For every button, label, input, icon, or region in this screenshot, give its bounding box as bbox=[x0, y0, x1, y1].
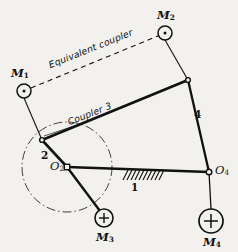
pivot-b-joint bbox=[186, 78, 191, 83]
link-number-crank: 2 bbox=[41, 150, 48, 161]
arm-m3-line bbox=[67, 167, 100, 211]
link-number-ground: 1 bbox=[131, 182, 138, 193]
ground-link-1-line bbox=[67, 167, 209, 172]
linkage-diagram: Equivalent coupler Coupler 3 M1 M2 M3 M4… bbox=[0, 0, 238, 252]
mass-m4-label: M4 bbox=[203, 237, 221, 249]
pivot-o2-label: O2 bbox=[50, 161, 64, 173]
arm-m1-line bbox=[24, 98, 42, 140]
pivot-a-joint bbox=[40, 138, 45, 143]
ground-hatching bbox=[123, 170, 164, 180]
link-number-rocker: 4 bbox=[194, 109, 201, 120]
mass-m3-marker bbox=[95, 209, 113, 227]
pivot-o4-label: O4 bbox=[215, 165, 229, 177]
mass-m1-marker bbox=[17, 84, 31, 98]
mass-m4-marker bbox=[199, 209, 223, 233]
pivot-o4-joint bbox=[206, 169, 212, 175]
rocker-link-4-line bbox=[188, 80, 209, 172]
mass-m2-marker bbox=[158, 26, 172, 40]
mass-m3-label: M3 bbox=[96, 232, 114, 244]
arm-m2-line bbox=[165, 40, 188, 80]
pivot-o2-joint bbox=[64, 164, 69, 169]
arm-m4-line bbox=[209, 172, 211, 209]
mass-m1-label: M1 bbox=[11, 68, 29, 80]
mass-m2-label: M2 bbox=[157, 10, 175, 22]
coupler-link-3-line bbox=[42, 80, 188, 140]
